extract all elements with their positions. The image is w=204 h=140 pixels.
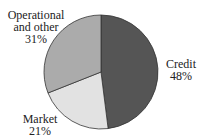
label-operational: Operational and other 31% <box>2 9 70 45</box>
label-credit: Credit 48% <box>158 58 204 82</box>
slice-credit <box>101 15 158 129</box>
label-operational-value: 31% <box>2 33 70 45</box>
label-market-value: 21% <box>15 125 65 137</box>
label-credit-value: 48% <box>158 70 204 82</box>
label-market: Market 21% <box>15 113 65 137</box>
